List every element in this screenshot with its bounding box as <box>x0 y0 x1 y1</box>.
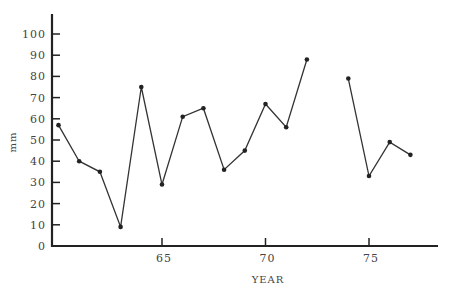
data-lines <box>59 59 411 226</box>
x-tick-label: 70 <box>260 252 276 265</box>
y-tick-label: 10 <box>30 219 46 232</box>
data-point <box>263 102 268 107</box>
data-point <box>305 57 310 62</box>
y-axis: 0102030405060708090100 <box>22 14 60 253</box>
data-point <box>180 114 185 119</box>
data-point <box>408 153 413 158</box>
y-tick-label: 90 <box>30 49 46 62</box>
y-tick-label: 80 <box>30 70 46 83</box>
x-axis: 657075 <box>51 238 438 265</box>
line-chart: 0102030405060708090100 657075 mm YEAR <box>0 0 451 301</box>
data-point <box>139 85 144 90</box>
x-tick-label: 75 <box>363 252 379 265</box>
x-tick-label: 65 <box>156 252 172 265</box>
y-tick-label: 20 <box>30 198 46 211</box>
data-points <box>56 57 413 229</box>
data-point <box>222 167 227 172</box>
data-point <box>346 76 351 81</box>
y-tick-label: 70 <box>30 92 46 105</box>
y-tick-label: 50 <box>30 134 46 147</box>
y-tick-label: 0 <box>38 240 46 253</box>
data-point <box>243 148 248 153</box>
series-line <box>59 59 307 226</box>
y-tick-label: 60 <box>30 113 46 126</box>
x-axis-title: YEAR <box>251 274 285 285</box>
data-point <box>387 140 392 145</box>
data-point <box>201 106 206 111</box>
data-point <box>98 170 103 175</box>
data-point <box>118 225 123 230</box>
y-tick-label: 40 <box>30 155 46 168</box>
series-line <box>348 79 410 177</box>
data-point <box>56 123 61 128</box>
y-tick-label: 30 <box>30 176 46 189</box>
y-axis-title: mm <box>7 132 18 153</box>
y-tick-label: 100 <box>22 28 46 41</box>
data-point <box>77 159 82 164</box>
data-point <box>284 125 289 130</box>
data-point <box>367 174 372 179</box>
data-point <box>160 182 165 187</box>
